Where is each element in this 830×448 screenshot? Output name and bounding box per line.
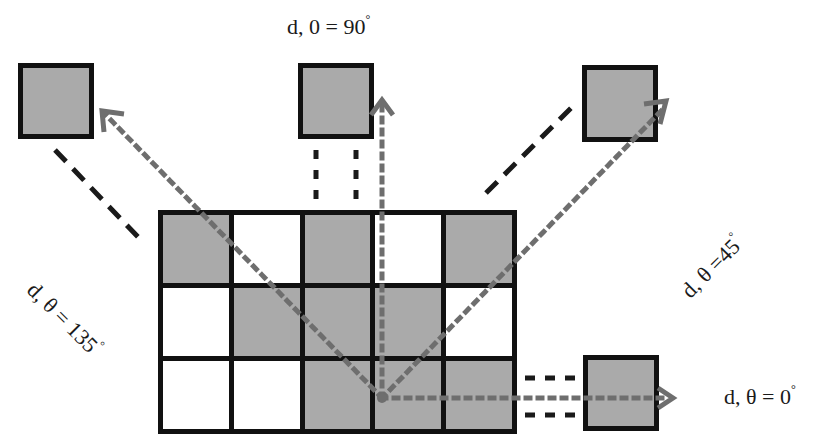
connector-135 [55,150,138,237]
arrow-45-line [382,108,664,398]
label-direction-0: d, θ = 0° [724,384,796,410]
glcm-direction-diagram: d, 0 = 90° d, θ = 135° d, θ =45° d, θ = … [0,0,830,448]
label-direction-90: d, 0 = 90° [287,14,370,40]
connector-45 [486,107,572,193]
origin-point [377,393,387,403]
direction-arrows [0,0,830,448]
arrow-135-line [104,113,382,398]
dashed-connectors [55,107,576,415]
